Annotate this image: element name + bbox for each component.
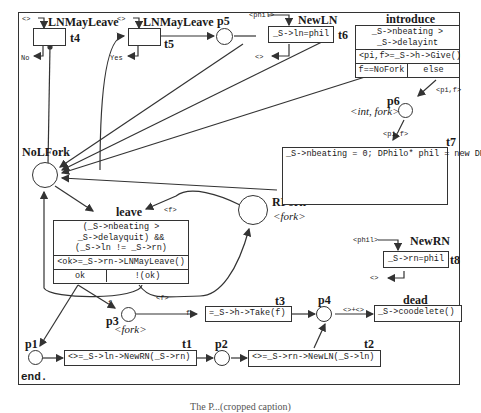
place-p2-label: p2	[215, 338, 228, 350]
place-rfork	[238, 195, 268, 225]
introduce-branch-else: else	[408, 64, 459, 77]
introduce-branch-nofork: f==NoFork	[356, 64, 408, 77]
t1-body: <>=_S->ln->NewRN(_S->rn)	[65, 351, 196, 364]
transition-t5-title: LNMayLeave	[143, 16, 214, 28]
dead-in-arc: <>+<>	[343, 307, 364, 314]
t8-out-arc: <>	[370, 275, 378, 282]
place-p1-label: p1	[25, 338, 38, 350]
t5-in-arc: <>	[117, 16, 125, 23]
transition-introduce-title: introduce	[386, 13, 435, 25]
place-p1	[28, 350, 43, 365]
leave-guard-line2: _S->delayquit) &&	[57, 233, 185, 244]
transition-t1-id: t1	[182, 338, 192, 350]
transition-t5	[128, 28, 161, 46]
transition-t6: _S->ln=phil	[268, 26, 334, 43]
transition-t8-id: t8	[450, 254, 460, 266]
leave-guard-line3: (_S->ln != _S->rn)	[57, 243, 185, 254]
end-label: end.	[21, 371, 47, 383]
dead-body: _S->coodelete()	[375, 306, 461, 319]
t6-in-arc: <phil>	[249, 12, 274, 19]
introduce-guard: _S->nbeating > _S->delayint	[356, 26, 459, 50]
place-p6	[398, 103, 413, 118]
t7-in-arc: <pi,f>	[383, 131, 408, 138]
transition-t4-title: LNMayLeave	[48, 16, 119, 28]
transition-t5-id: t5	[164, 38, 174, 50]
place-p6-type: <int, fork>	[350, 106, 400, 117]
t5-out-arc: Yes	[110, 55, 123, 62]
transition-leave-title: leave	[116, 206, 142, 218]
leave-out-arc-p3: f	[108, 300, 112, 307]
t6-body: _S->ln=phil	[269, 27, 333, 41]
transition-t1: <>=_S->ln->NewRN(_S->rn)	[64, 350, 197, 366]
introduce-out-arc: <pi,f>	[436, 87, 461, 94]
t4-in-arc: <>	[22, 16, 30, 23]
place-p5	[216, 28, 233, 45]
place-nolfork	[32, 162, 58, 188]
leave-branch-ok: ok	[54, 270, 107, 283]
place-p3	[121, 307, 136, 322]
place-p3-type: <fork>	[114, 324, 147, 335]
place-rfork-type: <fork>	[273, 211, 306, 222]
transition-leave: (_S->nbeating > _S->delayquit) && (_S->l…	[53, 220, 189, 284]
place-p2	[214, 350, 230, 366]
transition-t8-title: NewRN	[410, 235, 450, 247]
leave-out-arc-rfork: <f>	[156, 295, 169, 302]
transition-t3: =_S->h->Take(f)	[205, 306, 292, 322]
transition-t7: _S->nbeating = 0; DPhilo* phil = new DPh…	[282, 147, 448, 205]
figure-caption: The P...(cropped caption)	[0, 401, 481, 412]
transition-introduce: _S->nbeating > _S->delayint <pi,f>=_S->h…	[355, 25, 460, 78]
t4-out-arc: No	[21, 55, 29, 62]
introduce-guard-line1: _S->nbeating >	[359, 27, 456, 38]
transition-t2: <>=_S->rn->NewLN(_S->ln)	[248, 350, 381, 367]
leave-action: <ok>=_S->rn->LNMayLeave()	[54, 256, 188, 270]
place-p4	[316, 306, 332, 322]
transition-dead: _S->coodelete()	[374, 305, 462, 322]
place-p4-label: p4	[318, 294, 331, 306]
transition-t6-title: NewLN	[298, 14, 337, 26]
t2-body: <>=_S->rn->NewLN(_S->ln)	[249, 351, 380, 364]
place-p5-label: p5	[217, 15, 230, 27]
leave-guard: (_S->nbeating > _S->delayquit) && (_S->l…	[54, 221, 188, 256]
t7-code: _S->nbeating = 0; DPhilo* phil = new DPh…	[283, 148, 447, 161]
leave-in-arc: <f>	[164, 207, 177, 214]
introduce-branches: f==NoFork else	[356, 64, 459, 77]
leave-guard-line1: (_S->nbeating >	[57, 222, 185, 233]
transition-t2-id: t2	[364, 338, 374, 350]
introduce-action: <pi,f>=_S->h->Give()	[356, 50, 459, 64]
transition-t8: _S->rn=phil	[383, 251, 449, 268]
introduce-guard-line2: _S->delayint	[359, 38, 456, 49]
transition-t6-id: t6	[338, 29, 348, 41]
t6-out-arc: <>	[255, 54, 263, 61]
transition-t4	[33, 28, 66, 46]
place-nolfork-label: NoLFork	[22, 146, 70, 158]
t8-body: _S->rn=phil	[384, 252, 448, 266]
t8-in-arc: <phil>	[353, 237, 378, 244]
leave-branch-not-ok: !(ok)	[107, 270, 188, 283]
t3-body: =_S->h->Take(f)	[206, 307, 291, 320]
leave-branches: ok !(ok)	[54, 270, 188, 283]
t3-in-arc: f	[186, 310, 190, 317]
transition-t4-id: t4	[70, 32, 80, 44]
